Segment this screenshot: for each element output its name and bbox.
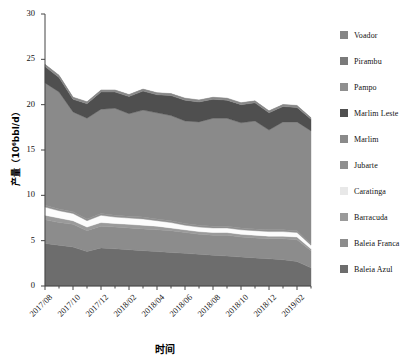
- y-tick-label: 25: [13, 53, 35, 63]
- legend-item[interactable]: Baleia Franca: [340, 230, 417, 256]
- legend-swatch-icon: [340, 161, 348, 169]
- legend-item[interactable]: Marlim Leste: [340, 100, 417, 126]
- legend-item-label: Voador: [354, 31, 378, 40]
- legend-swatch-icon: [340, 31, 348, 39]
- y-tick-label: 15: [13, 144, 35, 154]
- legend-item-label: Marlim: [354, 135, 379, 144]
- legend-swatch-icon: [340, 83, 348, 91]
- legend-swatch-icon: [340, 187, 348, 195]
- chart-legend: VoadorPirambuPampoMarlim LesteMarlimJuba…: [340, 22, 417, 282]
- chart-figure: 时间 产量（10⁶bbl/d） VoadorPirambuPampoMarlim…: [0, 0, 417, 364]
- legend-swatch-icon: [340, 265, 348, 273]
- legend-item-label: Caratinga: [354, 187, 386, 196]
- legend-item[interactable]: Caratinga: [340, 178, 417, 204]
- legend-item-label: Baleia Franca: [354, 239, 400, 248]
- legend-item[interactable]: Pirambu: [340, 48, 417, 74]
- legend-item-label: Barracuda: [354, 213, 388, 222]
- legend-swatch-icon: [340, 239, 348, 247]
- y-tick-label: 5: [13, 235, 35, 245]
- legend-item-label: Pampo: [354, 83, 377, 92]
- legend-item-label: Pirambu: [354, 57, 382, 66]
- legend-swatch-icon: [340, 135, 348, 143]
- legend-item[interactable]: Barracuda: [340, 204, 417, 230]
- y-tick-label: 0: [13, 280, 35, 290]
- legend-swatch-icon: [340, 109, 348, 117]
- legend-swatch-icon: [340, 213, 348, 221]
- legend-item[interactable]: Marlim: [340, 126, 417, 152]
- legend-item[interactable]: Baleia Azul: [340, 256, 417, 282]
- legend-item[interactable]: Pampo: [340, 74, 417, 100]
- legend-item-label: Jubarte: [354, 161, 378, 170]
- y-tick-label: 30: [13, 8, 35, 18]
- legend-item-label: Marlim Leste: [354, 109, 399, 118]
- legend-item[interactable]: Voador: [340, 22, 417, 48]
- legend-item[interactable]: Jubarte: [340, 152, 417, 178]
- legend-item-label: Baleia Azul: [354, 265, 393, 274]
- area-layers: [45, 64, 311, 286]
- y-tick-label: 20: [13, 99, 35, 109]
- x-axis-title: 时间: [0, 341, 330, 356]
- legend-swatch-icon: [340, 57, 348, 65]
- y-tick-label: 10: [13, 189, 35, 199]
